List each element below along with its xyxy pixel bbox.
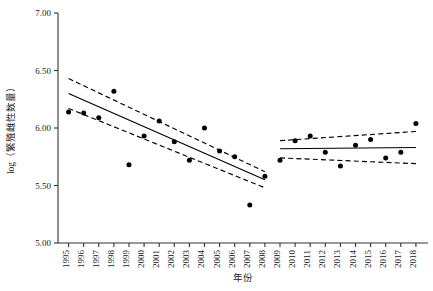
data-point-marker [81,111,86,116]
data-point-marker [338,163,343,168]
y-tick-label: 7.00 [35,8,51,18]
data-point-marker [293,138,298,143]
x-tick-label: 2002 [166,250,176,268]
data-point-marker [217,149,222,154]
data-point-marker [353,143,358,148]
chart-container: 5.005.506.006.507.00 1995199619971998199… [0,0,433,291]
data-point-marker [111,89,116,94]
x-axis-title: 年份 [233,272,253,283]
data-point-marker [278,158,283,163]
data-point-marker [323,150,328,155]
x-tick-label: 1996 [76,250,86,269]
x-tick-label: 2011 [302,250,312,268]
x-tick-label: 1998 [106,250,116,269]
data-point-marker [187,158,192,163]
x-tick-label: 2014 [348,250,358,269]
scatter-plot: 5.005.506.006.507.00 1995199619971998199… [0,0,433,291]
data-point-marker [202,126,207,131]
data-point-marker [157,119,162,124]
y-tick-label: 6.50 [35,66,51,76]
x-tick-label: 2012 [317,250,327,268]
data-point-marker [172,139,177,144]
plot-background [0,0,433,291]
data-point-marker [398,150,403,155]
y-tick-label: 5.00 [35,238,51,248]
x-tick-label: 2004 [196,250,206,269]
data-point-marker [262,174,267,179]
data-point-marker [142,134,147,139]
x-tick-label: 2017 [393,250,403,269]
y-tick-label: 5.50 [35,181,51,191]
data-point-marker [232,154,237,159]
x-tick-label: 2006 [227,250,237,269]
data-point-marker [368,137,373,142]
x-tick-label: 2015 [363,250,373,269]
data-point-marker [247,203,252,208]
data-point-marker [96,115,101,120]
x-tick-label: 1995 [61,250,71,269]
x-tick-label: 2013 [332,250,342,269]
x-tick-label: 2010 [287,250,297,269]
x-tick-label: 2003 [181,250,191,269]
data-point-marker [308,134,313,139]
y-axis-title: log（繁殖雌性数量） [5,82,16,174]
data-point-marker [413,121,418,126]
x-tick-label: 2005 [212,250,222,269]
x-tick-label: 2009 [272,250,282,269]
x-tick-label: 1997 [91,250,101,269]
y-tick-label: 6.00 [35,123,51,133]
x-tick-label: 2018 [408,250,418,269]
x-tick-label: 2016 [378,250,388,269]
x-tick-label: 2008 [257,250,267,269]
data-point-marker [126,162,131,167]
x-tick-label: 2001 [151,250,161,268]
x-tick-label: 2007 [242,249,252,268]
data-point-marker [383,155,388,160]
x-tick-label: 1999 [121,250,131,269]
x-tick-label: 2000 [136,250,146,269]
data-point-marker [66,109,71,114]
